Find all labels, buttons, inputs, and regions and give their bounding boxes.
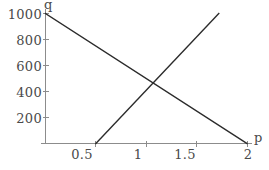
series-line-demand bbox=[46, 14, 248, 144]
y-tick-label-1000: 1000 bbox=[0, 8, 42, 21]
axes-group bbox=[41, 9, 252, 144]
x-tick-label-1: 1 bbox=[118, 148, 158, 161]
y-tick-label-600: 600 bbox=[0, 60, 42, 73]
x-tick-label-1-5: 1.5 bbox=[165, 148, 205, 161]
supply-demand-plot: 1000 800 600 400 200 0.5 1 1.5 2 q p bbox=[0, 0, 269, 170]
x-axis-label: p bbox=[254, 131, 262, 144]
y-tick-label-200: 200 bbox=[0, 112, 42, 125]
x-tick-label-2: 2 bbox=[228, 148, 268, 161]
y-axis-label: q bbox=[44, 0, 52, 11]
series-group bbox=[46, 14, 248, 144]
y-tick-label-800: 800 bbox=[0, 34, 42, 47]
series-line-supply bbox=[96, 14, 219, 144]
x-tick-label-0-5: 0.5 bbox=[62, 148, 102, 161]
y-tick-label-400: 400 bbox=[0, 86, 42, 99]
